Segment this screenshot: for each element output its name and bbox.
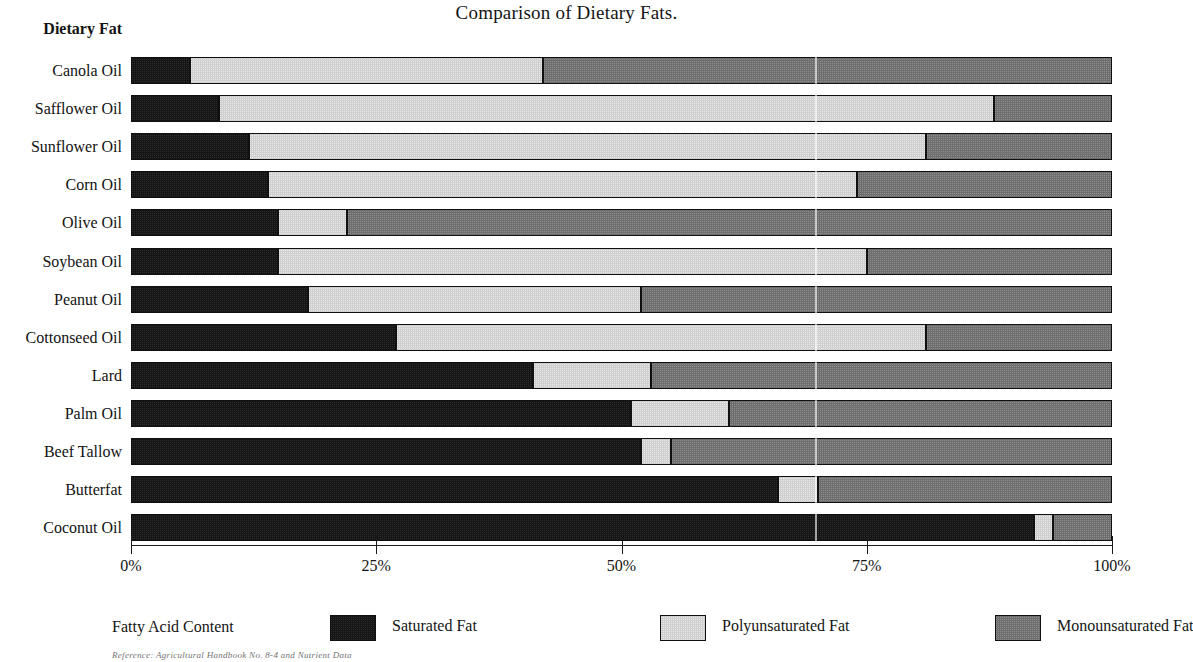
x-axis-tick <box>867 536 868 554</box>
saturated-segment <box>131 400 631 427</box>
polyunsaturated-segment <box>631 400 729 427</box>
polyunsaturated-segment <box>778 476 817 503</box>
x-axis-tick-label: 50% <box>607 557 636 575</box>
legend-label: Saturated Fat <box>392 617 477 635</box>
x-axis-tick-label: 100% <box>1093 557 1130 575</box>
polyunsaturated-segment <box>533 362 651 389</box>
bar-row: Palm Oil <box>131 400 1112 427</box>
saturated-segment <box>131 133 249 160</box>
x-axis-tick <box>622 536 623 554</box>
y-axis-category-label: Butterfat <box>0 476 122 503</box>
y-axis-category-label: Corn Oil <box>0 171 122 198</box>
y-axis-category-label: Palm Oil <box>0 400 122 427</box>
monounsaturated-segment <box>857 171 1112 198</box>
monounsaturated-segment <box>926 133 1112 160</box>
x-axis-tick <box>131 536 132 554</box>
bar-row: Soybean Oil <box>131 248 1112 275</box>
bar-row: Cottonseed Oil <box>131 324 1112 351</box>
bar-row: Butterfat <box>131 476 1112 503</box>
x-axis-tick-label: 75% <box>852 557 881 575</box>
polyunsaturated-segment <box>641 438 670 465</box>
y-axis-category-label: Soybean Oil <box>0 248 122 275</box>
monounsaturated-segment <box>347 209 1112 236</box>
legend-label: Polyunsaturated Fat <box>722 617 850 635</box>
monounsaturated-segment <box>641 286 1112 313</box>
polyunsaturated-segment <box>1034 514 1054 541</box>
bar-row: Olive Oil <box>131 209 1112 236</box>
bar-rows-container: Canola OilSafflower OilSunflower OilCorn… <box>131 50 1112 545</box>
saturated-swatch <box>330 615 376 641</box>
y-axis-category-label: Peanut Oil <box>0 286 122 313</box>
polyunsaturated-segment <box>268 171 857 198</box>
polyunsaturated-segment <box>278 209 347 236</box>
saturated-segment <box>131 286 308 313</box>
saturated-segment <box>131 248 278 275</box>
y-axis-category-label: Canola Oil <box>0 57 122 84</box>
x-axis-tick <box>1112 536 1113 554</box>
saturated-segment <box>131 95 219 122</box>
polyunsaturated-segment <box>396 324 926 351</box>
legend-label: Monounsaturated Fat <box>1057 617 1193 635</box>
saturated-segment <box>131 476 778 503</box>
bar-row: Peanut Oil <box>131 286 1112 313</box>
monounsaturated-segment <box>1053 514 1112 541</box>
saturated-segment <box>131 438 641 465</box>
bar-row: Beef Tallow <box>131 438 1112 465</box>
plot-area: Canola OilSafflower OilSunflower OilCorn… <box>131 50 1112 545</box>
monounsaturated-swatch <box>995 615 1041 641</box>
chart-title: Comparison of Dietary Fats. <box>0 2 1133 24</box>
x-axis-tick-label: 0% <box>120 557 141 575</box>
polyunsaturated-segment <box>190 57 543 84</box>
bar-row: Safflower Oil <box>131 95 1112 122</box>
y-axis-category-label: Sunflower Oil <box>0 133 122 160</box>
monounsaturated-segment <box>994 95 1112 122</box>
saturated-segment <box>131 209 278 236</box>
bar-row: Sunflower Oil <box>131 133 1112 160</box>
y-axis-category-label: Olive Oil <box>0 209 122 236</box>
saturated-segment <box>131 514 1034 541</box>
monounsaturated-segment <box>651 362 1112 389</box>
monounsaturated-segment <box>671 438 1112 465</box>
legend-title: Fatty Acid Content <box>112 618 234 636</box>
polyunsaturated-segment <box>308 286 642 313</box>
monounsaturated-segment <box>818 476 1112 503</box>
footnote-reference: Reference: Agricultural Handbook No. 8-4… <box>112 650 352 660</box>
bar-row: Canola Oil <box>131 57 1112 84</box>
polyunsaturated-segment <box>278 248 867 275</box>
saturated-segment <box>131 171 268 198</box>
monounsaturated-segment <box>729 400 1112 427</box>
bar-row: Corn Oil <box>131 171 1112 198</box>
x-axis-tick-label: 25% <box>362 557 391 575</box>
y-axis-category-label: Lard <box>0 362 122 389</box>
x-axis-tick <box>376 536 377 554</box>
saturated-segment <box>131 324 396 351</box>
y-axis-category-label: Coconut Oil <box>0 514 122 541</box>
monounsaturated-segment <box>543 57 1112 84</box>
polyunsaturated-swatch <box>660 615 706 641</box>
saturated-segment <box>131 362 533 389</box>
y-axis-title: Dietary Fat <box>0 20 122 38</box>
y-axis-category-label: Safflower Oil <box>0 95 122 122</box>
polyunsaturated-segment <box>219 95 994 122</box>
saturated-segment <box>131 57 190 84</box>
chart-legend: Fatty Acid Content Saturated FatPolyunsa… <box>0 612 1133 646</box>
monounsaturated-segment <box>867 248 1112 275</box>
polyunsaturated-segment <box>249 133 926 160</box>
y-axis-category-label: Beef Tallow <box>0 438 122 465</box>
monounsaturated-segment <box>926 324 1112 351</box>
y-axis-category-label: Cottonseed Oil <box>0 324 122 351</box>
bar-row: Lard <box>131 362 1112 389</box>
